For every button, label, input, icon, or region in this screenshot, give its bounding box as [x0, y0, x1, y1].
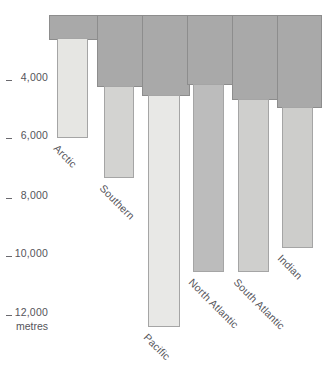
bar-upper-southern — [97, 15, 145, 87]
category-label-southern: Southern — [98, 182, 138, 222]
bar-lower-north-atlantic — [193, 84, 224, 272]
bar-upper-indian — [277, 15, 322, 108]
bar-upper-south-atlantic — [232, 15, 280, 100]
category-label-arctic: Arctic — [52, 142, 80, 170]
plot-area: Arctic Southern Pacific North Atlantic S… — [0, 0, 324, 382]
bar-lower-pacific — [148, 95, 180, 327]
bar-upper-north-atlantic — [187, 15, 235, 85]
category-label-pacific: Pacific — [142, 331, 173, 362]
bar-lower-southern — [104, 86, 134, 178]
bar-lower-south-atlantic — [238, 99, 269, 272]
bar-lower-arctic — [57, 38, 88, 138]
category-label-indian: Indian — [276, 252, 306, 282]
category-label-south-atlantic: South Atlantic — [232, 276, 288, 332]
bar-lower-indian — [282, 107, 313, 248]
ocean-depth-chart: 4,000 6,000 8,000 10,000 12,000 metres A… — [0, 0, 324, 382]
bar-upper-pacific — [142, 15, 190, 96]
